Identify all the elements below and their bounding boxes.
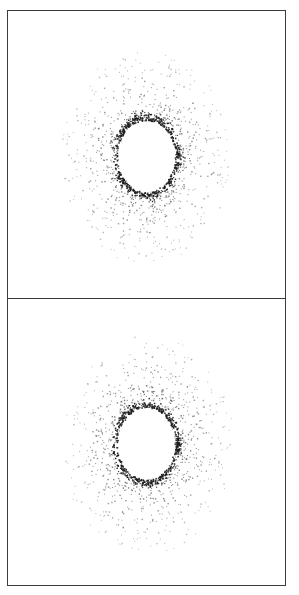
scatter-plot-top: [8, 11, 285, 298]
scatter-panel-top: [8, 11, 285, 299]
scatter-plot-bottom: [8, 299, 285, 585]
scatter-panel-bottom: [8, 299, 285, 585]
figure-root: [0, 0, 299, 595]
figure-outer-frame: [7, 10, 286, 586]
